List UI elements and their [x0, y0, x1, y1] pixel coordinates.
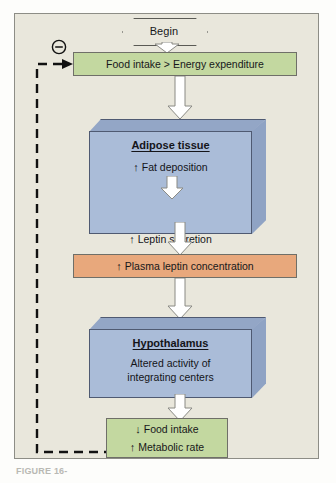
- step-plasma-leptin-text: Plasma leptin concentration: [125, 260, 254, 272]
- hypothalamus-line-1: Altered activity of: [131, 357, 211, 371]
- hypothalamus-block-front-face: Hypothalamus Altered activity of integra…: [89, 329, 252, 398]
- arrow-plasma-leptin-to-hypothalamus: [167, 278, 193, 320]
- step-food-intake-box: Food intake > Energy expenditure: [73, 52, 297, 76]
- hypothalamus-line-2: integrating centers: [127, 371, 213, 385]
- adipose-title: Adipose tissue: [131, 139, 209, 151]
- adipose-block-side-face: [252, 119, 266, 234]
- arrow-food-intake-to-adipose: [167, 76, 193, 120]
- step-outcome-line-1-text: Food intake: [144, 423, 199, 435]
- step-hypothalamus-block: Hypothalamus Altered activity of integra…: [89, 317, 266, 398]
- adipose-block-front-face: Adipose tissue ↑ Fat deposition ↑ Leptin…: [89, 131, 252, 234]
- step-food-intake-text: Food intake > Energy expenditure: [106, 58, 264, 70]
- hypothalamus-title: Hypothalamus: [133, 337, 209, 349]
- step-plasma-leptin-box: ↑ Plasma leptin concentration: [73, 254, 297, 278]
- adipose-line-2-arrow: ↑: [129, 233, 135, 245]
- adipose-line-1: ↑ Fat deposition: [133, 160, 207, 175]
- step-outcome-box: ↓ Food intake ↑ Metabolic rate: [106, 418, 228, 458]
- step-outcome-line-2: ↑ Metabolic rate: [130, 440, 204, 455]
- step-adipose-tissue-block: Adipose tissue ↑ Fat deposition ↑ Leptin…: [89, 119, 266, 234]
- negative-feedback-icon: [51, 39, 67, 55]
- step-plasma-leptin-arrow: ↑: [116, 260, 122, 272]
- adipose-line-1-text: Fat deposition: [142, 161, 208, 173]
- arrow-adipose-to-plasma-leptin: [167, 222, 193, 256]
- arrow-internal-adipose: [160, 176, 184, 200]
- figure-frame: Begin Food intake > Energy expenditure A…: [14, 13, 319, 459]
- step-outcome-line-1: ↓ Food intake: [135, 422, 198, 437]
- step-outcome-line-1-arrow: ↓: [135, 423, 141, 435]
- figure-caption: FIGURE 16-: [16, 466, 326, 476]
- step-food-intake-line: Food intake > Energy expenditure: [106, 57, 264, 72]
- step-plasma-leptin-line: ↑ Plasma leptin concentration: [116, 259, 253, 274]
- hypothalamus-block-side-face: [252, 317, 266, 398]
- adipose-line-1-arrow: ↑: [133, 161, 139, 173]
- begin-label: Begin: [122, 18, 206, 44]
- step-outcome-line-2-arrow: ↑: [130, 441, 136, 453]
- step-outcome-line-2-text: Metabolic rate: [138, 441, 204, 453]
- begin-node: Begin: [122, 18, 206, 44]
